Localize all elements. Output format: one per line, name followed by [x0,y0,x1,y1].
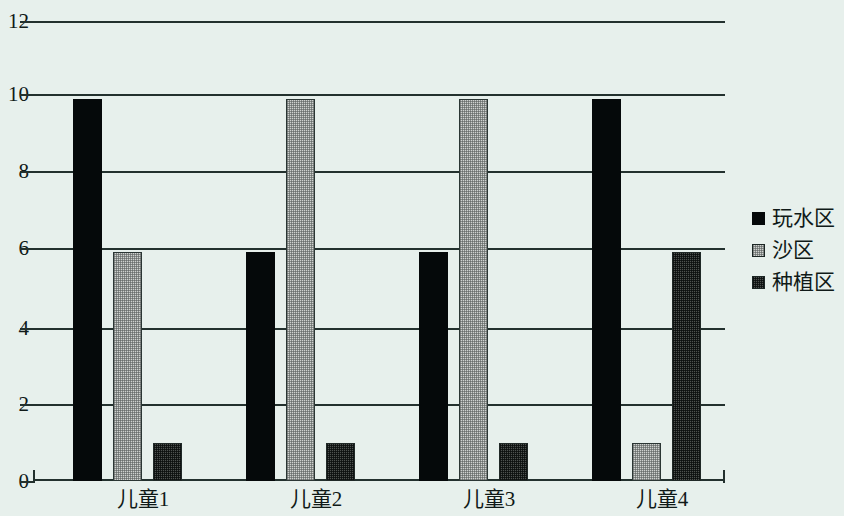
bar-group-0 [73,21,213,481]
legend-item-1[interactable]: 沙区 [752,235,844,265]
bar-group-2 [419,21,559,481]
bar-chart: 12 10 8 6 4 2 0 [0,0,844,516]
bar-group-1 [246,21,386,481]
bar-series-1-cat-0 [113,252,142,481]
x-tick-label-2: 儿童3 [419,487,559,511]
legend-swatch-icon [752,212,765,225]
y-axis-tick-mark [20,328,33,330]
chart-legend: 玩水区 沙区 种植区 [752,203,844,299]
x-tick-label-1: 儿童2 [246,487,386,511]
bar-series-1-cat-3 [632,443,661,481]
bar-groups [33,21,725,481]
bar-series-1-cat-2 [459,99,488,481]
bar-series-0-cat-0 [73,99,102,481]
y-axis-tick-mark [20,481,33,483]
x-tick-label-0: 儿童1 [73,487,213,511]
y-axis-tick-mark [20,248,33,250]
bar-group-3 [592,21,732,481]
bar-series-0-cat-2 [419,252,448,481]
y-axis-tick-mark [20,171,33,173]
bar-series-2-cat-2 [499,443,528,481]
y-axis-tick-mark [20,94,33,96]
bar-series-2-cat-0 [153,443,182,481]
legend-label: 沙区 [772,240,814,261]
bar-series-1-cat-1 [286,99,315,481]
legend-label: 种植区 [772,272,835,293]
y-axis-labels: 12 10 8 6 4 2 0 [0,0,29,516]
y-axis-spine [33,470,35,483]
legend-swatch-icon [752,244,765,257]
bar-series-2-cat-3 [672,252,701,481]
x-tick-label-3: 儿童4 [592,487,732,511]
bar-series-2-cat-1 [326,443,355,481]
x-axis-end-tick [723,470,725,483]
bar-series-0-cat-1 [246,252,275,481]
legend-item-0[interactable]: 玩水区 [752,203,844,233]
legend-label: 玩水区 [772,208,835,229]
plot-area [33,21,725,481]
y-axis-tick-mark [20,21,33,23]
legend-item-2[interactable]: 种植区 [752,267,844,297]
bar-series-0-cat-3 [592,99,621,481]
y-axis-tick-mark [20,404,33,406]
legend-swatch-icon [752,276,765,289]
x-axis-labels: 儿童1 儿童2 儿童3 儿童4 [33,487,725,516]
